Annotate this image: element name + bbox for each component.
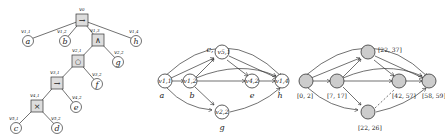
svg-text:v4,1: v4,1 <box>30 92 39 98</box>
svg-text:v3,1: v3,1 <box>50 69 59 75</box>
svg-text:→: → <box>79 16 86 25</box>
svg-text:v1,3: v1,3 <box>90 27 100 33</box>
svg-text:○: ○ <box>75 58 81 66</box>
svg-text:h: h <box>277 91 282 100</box>
interval-v51: [22, 37] <box>378 46 402 53</box>
interval-v14: [58, 59] <box>422 92 445 99</box>
svg-text:v1,2: v1,2 <box>184 77 197 84</box>
svg-text:∧: ∧ <box>95 36 101 45</box>
svg-text:b: b <box>189 91 194 100</box>
svg-text:v5,1: v5,1 <box>9 115 18 121</box>
interval-v42: [42, 57] <box>392 92 416 99</box>
interval-v12: [7, 17] <box>327 92 347 99</box>
svg-text:v5,2: v5,2 <box>51 115 61 121</box>
svg-text:a: a <box>26 37 31 46</box>
svg-text:g: g <box>219 123 224 132</box>
svg-text:v1,4: v1,4 <box>129 28 139 34</box>
svg-text:×: × <box>34 102 41 111</box>
svg-text:→: → <box>54 79 61 88</box>
svg-text:c,: c, <box>206 45 213 54</box>
svg-text:e: e <box>74 103 79 112</box>
svg-text:v4,2: v4,2 <box>72 94 82 100</box>
interval-v11: [0, 2] <box>297 92 313 99</box>
svg-text:v0: v0 <box>79 6 85 12</box>
svg-text:d: d <box>54 124 59 133</box>
svg-text:v2,1: v2,1 <box>72 47 81 53</box>
svg-text:v1,4: v1,4 <box>276 77 289 84</box>
diagram-canvas: → ∧ ○ → × abh gfe cd v0 v1,1 v1,2 v1,3 v… <box>0 0 445 140</box>
svg-text:b: b <box>62 37 67 46</box>
timed-nodes <box>299 45 436 119</box>
svg-text:v1,1: v1,1 <box>159 77 172 84</box>
svg-text:a: a <box>160 91 165 100</box>
svg-text:c: c <box>14 124 19 133</box>
svg-text:h: h <box>133 37 138 46</box>
svg-text:v5,1: v5,1 <box>218 48 231 55</box>
svg-text:v1,2: v1,2 <box>57 28 67 34</box>
svg-text:v2,2: v2,2 <box>216 108 229 115</box>
svg-text:v3,2: v3,2 <box>92 71 102 77</box>
interval-v22: [22, 26] <box>358 124 382 131</box>
svg-text:v1,1: v1,1 <box>21 28 30 34</box>
svg-text:g: g <box>115 58 120 67</box>
svg-text:v4,2: v4,2 <box>246 77 259 84</box>
svg-text:v2,2: v2,2 <box>114 49 124 55</box>
svg-text:e: e <box>250 91 255 100</box>
